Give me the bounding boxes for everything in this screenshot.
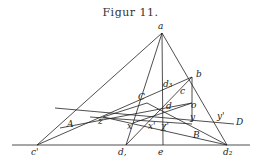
label-x: x <box>127 122 132 131</box>
label-d2: d₂ <box>223 148 232 157</box>
label-x_prime: x' <box>148 122 156 131</box>
label-y: y <box>190 113 195 122</box>
label-c: c <box>180 87 185 96</box>
label-A: A <box>67 120 74 129</box>
label-D: D <box>236 118 243 127</box>
label-z: z <box>98 117 103 126</box>
label-chi_prime: χ' <box>161 122 169 131</box>
label-a: a <box>158 22 163 31</box>
line-a-c_prime <box>37 33 162 145</box>
geometric-diagram <box>0 0 261 162</box>
label-e: e <box>158 148 163 157</box>
label-B: B <box>193 131 200 140</box>
label-d1: d, <box>118 148 127 157</box>
label-c_prime: c' <box>31 148 39 157</box>
line-z-C <box>103 103 147 117</box>
label-d: d <box>166 102 172 111</box>
label-d3: d₃ <box>163 80 172 89</box>
line-line-zx <box>90 117 192 124</box>
label-b: b <box>196 70 202 79</box>
label-o: o <box>191 101 196 110</box>
label-C: C <box>138 93 145 102</box>
label-y_prime: y' <box>217 112 225 121</box>
